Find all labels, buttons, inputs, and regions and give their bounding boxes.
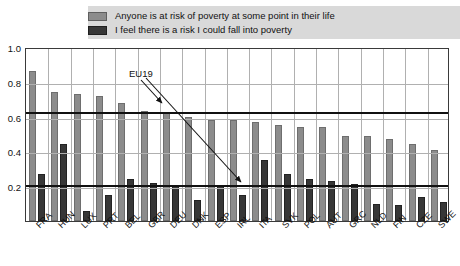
bar-anyone-at-risk <box>252 122 259 221</box>
bar-group <box>227 49 249 221</box>
bar-group <box>294 49 316 221</box>
poverty-risk-bar-chart: Anyone is at risk of poverty at some poi… <box>0 0 460 266</box>
gridline-vertical <box>160 49 161 221</box>
gridline-horizontal <box>26 188 448 189</box>
bar-group <box>93 49 115 221</box>
gridline-vertical <box>182 49 183 221</box>
gridline-vertical <box>383 49 384 221</box>
legend-swatch-dark-gray-icon <box>88 26 107 35</box>
bar-anyone-at-risk <box>29 71 36 221</box>
bar-personal-risk <box>60 144 67 221</box>
legend-label-personal-risk: I feel there is a risk I could fall into… <box>115 25 292 35</box>
gridline-vertical <box>428 49 429 221</box>
chart-legend: Anyone is at risk of poverty at some poi… <box>88 6 460 39</box>
y-axis-tick-label: 1.0 <box>8 43 21 54</box>
bar-anyone-at-risk <box>386 139 393 221</box>
y-axis-tick-label: 0.2 <box>8 182 21 193</box>
eu19-reference-line <box>26 112 448 114</box>
gridline-vertical <box>249 49 250 221</box>
bar-group <box>271 49 293 221</box>
gridline-vertical <box>338 49 339 221</box>
bar-group <box>428 49 450 221</box>
gridline-vertical <box>93 49 94 221</box>
bar-anyone-at-risk <box>364 136 371 221</box>
bar-anyone-at-risk <box>297 127 304 221</box>
x-axis-labels: FRAHUNLUXPRTBELGBRDEUDNKESPIRLITASVKPOLA… <box>25 223 449 266</box>
bar-group <box>383 49 405 221</box>
bar-personal-risk <box>261 160 268 221</box>
gridline-vertical <box>405 49 406 221</box>
bar-group <box>338 49 360 221</box>
bar-anyone-at-risk <box>163 113 170 221</box>
bar-group <box>71 49 93 221</box>
bar-anyone-at-risk <box>275 125 282 221</box>
gridline-vertical <box>271 49 272 221</box>
y-axis-labels: 1.00.80.60.40.2 <box>0 48 23 222</box>
bar-anyone-at-risk <box>118 103 125 221</box>
bar-anyone-at-risk <box>185 117 192 221</box>
gridline-vertical <box>361 49 362 221</box>
bar-anyone-at-risk <box>141 111 148 221</box>
gridline-vertical <box>227 49 228 221</box>
plot-area <box>25 48 449 222</box>
gridline-horizontal <box>26 84 448 85</box>
y-axis-tick-label: 0.6 <box>8 112 21 123</box>
gridline-vertical <box>48 49 49 221</box>
bars-container <box>26 49 448 221</box>
eu19-annotation-label: EU19 <box>129 68 153 79</box>
gridline-vertical <box>316 49 317 221</box>
legend-swatch-light-gray-icon <box>88 12 107 21</box>
gridline-vertical <box>71 49 72 221</box>
gridline-vertical <box>115 49 116 221</box>
gridline-vertical <box>205 49 206 221</box>
bar-group <box>361 49 383 221</box>
bar-anyone-at-risk <box>208 120 215 221</box>
bar-anyone-at-risk <box>342 136 349 221</box>
bar-group <box>205 49 227 221</box>
y-axis-tick-label: 0.4 <box>8 147 21 158</box>
legend-label-anyone-at-risk: Anyone is at risk of poverty at some poi… <box>115 11 335 21</box>
gridline-vertical <box>294 49 295 221</box>
bar-anyone-at-risk <box>319 127 326 221</box>
bar-group <box>182 49 204 221</box>
bar-anyone-at-risk <box>96 96 103 221</box>
bar-anyone-at-risk <box>230 120 237 221</box>
gridline-horizontal <box>26 153 448 154</box>
bar-group <box>405 49 427 221</box>
bar-group <box>48 49 70 221</box>
bar-group <box>160 49 182 221</box>
bar-group <box>249 49 271 221</box>
gridline-horizontal <box>26 119 448 120</box>
bar-group <box>316 49 338 221</box>
bar-anyone-at-risk <box>409 144 416 221</box>
eu19-reference-line <box>26 185 448 187</box>
y-axis-tick-label: 0.8 <box>8 77 21 88</box>
bar-group <box>26 49 48 221</box>
legend-item-anyone-at-risk: Anyone is at risk of poverty at some poi… <box>88 9 335 23</box>
legend-item-personal-risk: I feel there is a risk I could fall into… <box>88 23 292 37</box>
